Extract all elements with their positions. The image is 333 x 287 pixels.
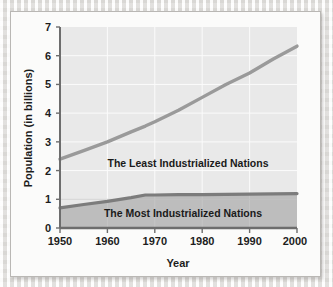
x-tick-label-1970: 1970 xyxy=(143,235,167,247)
y-tick-label-4: 4 xyxy=(45,107,52,119)
y-tick-label-2: 2 xyxy=(45,165,51,177)
y-axis-title: Population (in billions) xyxy=(22,68,34,187)
x-tick-label-1950: 1950 xyxy=(48,235,72,247)
chart-svg: 7 6 5 4 3 2 1 0 1950 1960 1970 1980 1990… xyxy=(11,12,322,278)
y-tick-label-1: 1 xyxy=(45,193,51,205)
y-tick-label-7: 7 xyxy=(45,21,51,33)
y-tick-label-5: 5 xyxy=(45,78,51,90)
most-industrialized-label: The Most Industrialized Nations xyxy=(104,207,262,219)
x-tick-label-1990: 1990 xyxy=(237,235,261,247)
x-tick-label-1960: 1960 xyxy=(95,235,119,247)
x-tick-label-1980: 1980 xyxy=(190,235,214,247)
y-tick-label-6: 6 xyxy=(45,50,51,62)
least-industrialized-label: The Least Industrialized Nations xyxy=(107,157,268,169)
chart-card: 7 6 5 4 3 2 1 0 1950 1960 1970 1980 1990… xyxy=(10,11,321,277)
population-line-chart: 7 6 5 4 3 2 1 0 1950 1960 1970 1980 1990… xyxy=(11,12,320,276)
y-tick-label-0: 0 xyxy=(45,222,51,234)
x-tick-label-2000: 2000 xyxy=(283,235,307,247)
x-axis-title: Year xyxy=(166,257,190,269)
y-tick-label-3: 3 xyxy=(45,136,51,148)
